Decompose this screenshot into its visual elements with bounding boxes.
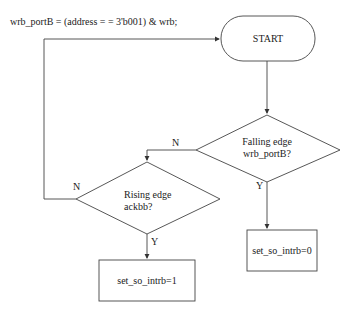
rising-label-line2: ackbb? <box>124 201 152 213</box>
header-expression: wrb_portB = (address = = 3'b001) & wrb; <box>10 16 177 28</box>
falling-no-label: N <box>172 137 179 149</box>
connector-falling-no <box>147 150 196 160</box>
process-set1-label: set_so_intrb=1 <box>117 275 177 287</box>
rising-label-line1: Rising edge <box>124 189 172 201</box>
rising-no-label: N <box>73 181 80 193</box>
rising-yes-label: Y <box>151 236 158 248</box>
start-label: START <box>253 33 283 45</box>
flowchart-canvas <box>0 0 351 311</box>
process-set0-label: set_so_intrb=0 <box>252 245 312 257</box>
falling-label-line2: wrb_portB? <box>243 148 291 160</box>
falling-label-line1: Falling edge <box>242 136 292 148</box>
connector-rising-no-loop <box>44 39 219 199</box>
falling-yes-label: Y <box>256 180 263 192</box>
